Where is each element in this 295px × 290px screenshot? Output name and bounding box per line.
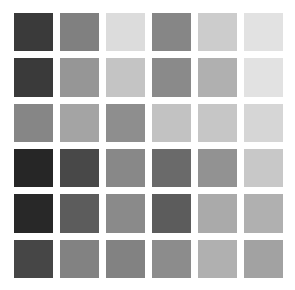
swatch-cell[interactable] [60, 194, 99, 232]
swatch-cell[interactable] [244, 58, 283, 96]
swatch-cell[interactable] [152, 13, 191, 51]
swatch-cell[interactable] [106, 58, 145, 96]
swatch-cell[interactable] [14, 194, 53, 232]
swatch-cell[interactable] [198, 149, 237, 187]
swatch-cell[interactable] [152, 104, 191, 142]
swatch-cell[interactable] [60, 240, 99, 278]
swatch-cell[interactable] [106, 194, 145, 232]
swatch-cell[interactable] [14, 149, 53, 187]
swatch-cell[interactable] [14, 240, 53, 278]
swatch-cell[interactable] [14, 13, 53, 51]
swatch-cell[interactable] [106, 149, 145, 187]
swatch-cell[interactable] [244, 240, 283, 278]
swatch-cell[interactable] [152, 58, 191, 96]
swatch-cell[interactable] [60, 149, 99, 187]
swatch-cell[interactable] [244, 149, 283, 187]
swatch-cell[interactable] [152, 194, 191, 232]
swatch-cell[interactable] [198, 13, 237, 51]
swatch-cell[interactable] [244, 104, 283, 142]
swatch-cell[interactable] [14, 58, 53, 96]
swatch-cell[interactable] [152, 149, 191, 187]
swatch-grid [0, 0, 295, 290]
swatch-cell[interactable] [244, 194, 283, 232]
swatch-cell[interactable] [60, 13, 99, 51]
swatch-cell[interactable] [60, 58, 99, 96]
swatch-cell[interactable] [106, 104, 145, 142]
swatch-cell[interactable] [198, 240, 237, 278]
swatch-cell[interactable] [198, 104, 237, 142]
swatch-cell[interactable] [152, 240, 191, 278]
swatch-cell[interactable] [14, 104, 53, 142]
swatch-cell[interactable] [244, 13, 283, 51]
swatch-cell[interactable] [106, 13, 145, 51]
swatch-cell[interactable] [60, 104, 99, 142]
swatch-cell[interactable] [198, 58, 237, 96]
swatch-cell[interactable] [198, 194, 237, 232]
swatch-cell[interactable] [106, 240, 145, 278]
